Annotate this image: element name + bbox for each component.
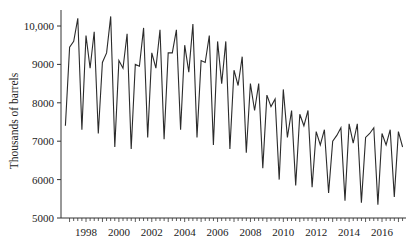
x-tick-label: 2012 xyxy=(305,226,327,238)
x-tick-label: 2010 xyxy=(272,226,295,238)
y-tick-label: 7000 xyxy=(32,135,55,147)
y-tick-label: 10,000 xyxy=(24,20,55,32)
x-tick-label: 2002 xyxy=(141,226,163,238)
y-tick-label: 5000 xyxy=(32,212,55,224)
x-tick-label: 2008 xyxy=(239,226,262,238)
y-tick-label: 8000 xyxy=(32,97,55,109)
x-tick-label: 2004 xyxy=(174,226,197,238)
x-tick-label: 2014 xyxy=(338,226,361,238)
y-axis-title: Thousands of barrels xyxy=(8,72,20,169)
x-axis: 1998200020022004200620082010201220142016 xyxy=(61,218,406,238)
y-axis: 5000600070008000900010,000 xyxy=(24,10,61,224)
y-tick-label: 9000 xyxy=(32,58,55,70)
series-line xyxy=(65,16,402,204)
y-tick-label: 6000 xyxy=(32,174,55,186)
x-tick-label: 2000 xyxy=(108,226,131,238)
x-tick-label: 2016 xyxy=(371,226,394,238)
line-chart: 5000600070008000900010,000 1998200020022… xyxy=(0,0,415,244)
x-tick-label: 1998 xyxy=(75,226,98,238)
x-tick-label: 2006 xyxy=(207,226,230,238)
